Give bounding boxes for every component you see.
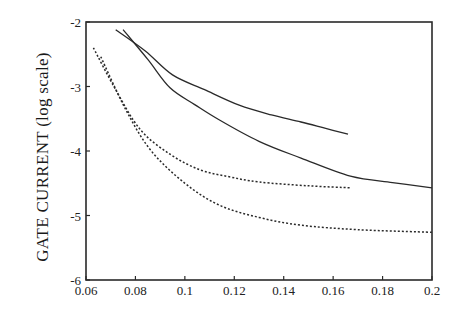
y-tick-label: -5 [70,209,81,224]
x-tick-label: 0.18 [371,283,394,298]
y-tick-label: -4 [70,144,81,159]
data-series [93,30,432,233]
x-tick-label: 0.2 [424,283,440,298]
series-solid-lower [123,30,432,188]
plot-frame [86,22,432,280]
y-tick-label: -3 [70,80,81,95]
series-dashed-upper [93,48,350,188]
x-tick-label: 0.1 [177,283,193,298]
series-solid-upper [116,30,348,135]
y-tick-label: -6 [70,273,81,288]
y-axis-ticks: -2-3-4-5-6 [70,15,90,288]
y-tick-label: -2 [70,15,81,30]
x-tick-label: 0.08 [124,283,147,298]
x-tick-label: 0.14 [272,283,295,298]
x-tick-label: 0.16 [322,283,345,298]
chart-plot: 0.060.080.10.120.140.160.180.2 -2-3-4-5-… [0,0,467,322]
plot-border [86,22,432,280]
x-tick-label: 0.12 [223,283,246,298]
